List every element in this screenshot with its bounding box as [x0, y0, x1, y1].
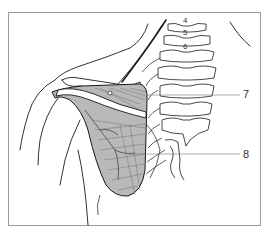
- vertebra-label-6: 6: [183, 43, 187, 51]
- shoulder-illustration: [0, 0, 268, 235]
- callout-label-7: 7: [243, 89, 249, 100]
- callout-label-8: 8: [243, 149, 249, 160]
- neck-outline: [55, 24, 148, 80]
- scapula: [52, 84, 147, 196]
- neck-right-outline: [230, 22, 250, 46]
- vertebra-label-4: 4: [183, 17, 187, 25]
- shoulder-outline: [20, 80, 55, 150]
- vertebra-label-5: 5: [183, 29, 187, 37]
